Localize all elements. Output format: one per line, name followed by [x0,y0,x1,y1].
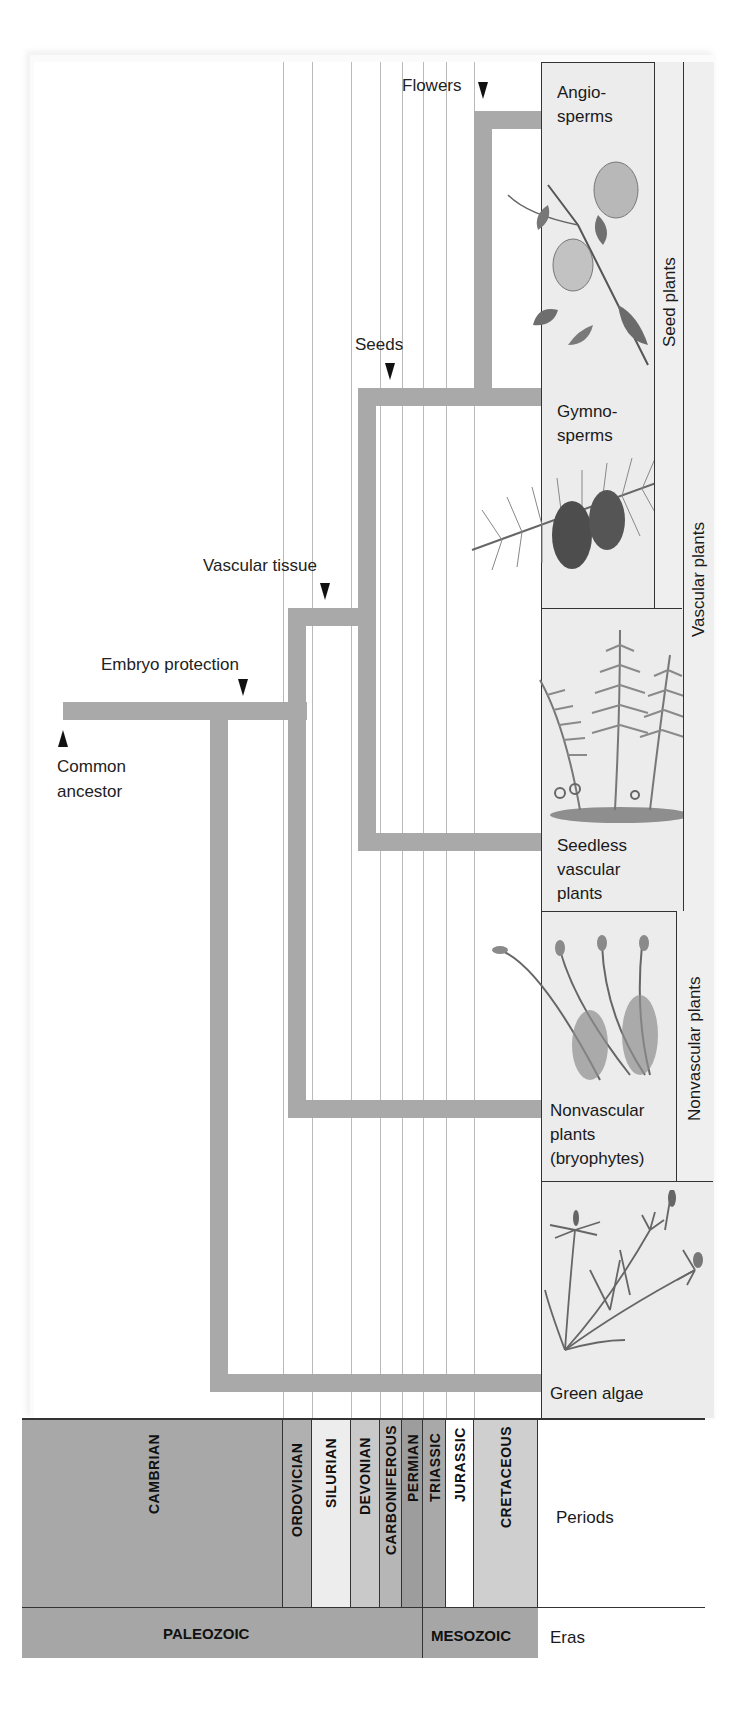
trait-label: Seeds [355,335,403,355]
trait-label: Vascular tissue [203,556,317,576]
arrow-down-icon [238,679,248,696]
period-triassic: TRIASSIC [423,1420,446,1608]
grid-line [402,62,403,1420]
arrow-down-icon [478,82,488,99]
taxon-label-line3: plants [557,883,602,904]
branch-root [63,702,307,720]
group-seed-plants: Seed plants [654,62,684,608]
grid-line [283,62,284,1420]
period-label: ORDOVICIAN [289,1443,305,1537]
period-label: JURASSIC [452,1427,468,1502]
periods-axis-label: Periods [556,1508,614,1528]
period-devonian: DEVONIAN [351,1420,380,1608]
period-permian: PERMIAN [402,1420,423,1608]
divider [541,1181,713,1182]
taxon-label-line2: plants [550,1124,595,1145]
taxon-label-line3: (bryophytes) [550,1148,644,1169]
taxon-angiosperms [541,62,654,63]
period-label: CRETACEOUS [498,1426,514,1528]
branch-land-plants-vertical [288,608,306,1118]
branch-green-algae-vertical [210,702,228,1392]
grid-line [380,62,381,1420]
period-carboniferous: CARBONIFEROUS [380,1420,402,1608]
trait-label: Embryo protection [101,655,239,675]
taxon-label-line1: Gymno- [557,401,617,422]
period-cretaceous: CRETACEOUS [474,1420,538,1608]
period-label: DEVONIAN [357,1437,373,1515]
period-label: CARBONIFEROUS [383,1425,399,1555]
era-paleozoic: PALEOZOIC [22,1608,423,1658]
branch-seedless-vascular [358,833,541,851]
grid-line [423,62,424,1420]
root-label-line1: Common [57,757,126,777]
group-label: Vascular plants [689,507,709,637]
era-mesozoic: MESOZOIC [423,1608,538,1658]
branch-green-algae [210,1374,541,1392]
period-ordovician: ORDOVICIAN [283,1420,312,1608]
grid-line [312,62,313,1420]
arrow-up-icon [58,730,68,747]
branch-gymnosperms [358,388,541,406]
period-silurian: SILURIAN [312,1420,351,1608]
arrow-down-icon [385,363,395,380]
divider [541,608,682,609]
grid-line [446,62,447,1420]
period-label: SILURIAN [323,1438,339,1508]
flower-illustration [498,155,658,375]
branch-seed-plants-vertical [474,111,492,406]
era-label: PALEOZOIC [163,1625,249,1642]
group-nonvascular-plants: Nonvascular plants [676,911,714,1181]
taxon-label-line2: sperms [557,106,613,127]
group-vascular-plants: Vascular plants [683,62,714,911]
period-label: CAMBRIAN [146,1434,162,1514]
arrow-down-icon [320,583,330,600]
root-label-line2: ancestor [57,782,122,802]
period-label: PERMIAN [405,1434,421,1502]
group-label: Seed plants [660,257,680,347]
taxon-label-line1: Nonvascular [550,1100,645,1121]
period-label: TRIASSIC [427,1433,443,1502]
taxon-label-line1: Angio- [557,82,606,103]
period-jurassic: JURASSIC [446,1420,474,1608]
fern-illustration [535,615,700,830]
moss-illustration [490,935,670,1095]
trait-label: Flowers [402,76,462,96]
era-label: MESOZOIC [431,1627,511,1644]
taxon-label-line2: vascular [557,859,620,880]
taxon-label-line1: Green algae [550,1383,644,1404]
taxon-label-line1: Seedless [557,835,627,856]
period-cambrian: CAMBRIAN [22,1420,283,1608]
eras-axis-label: Eras [550,1628,585,1648]
green-algae-illustration [540,1190,705,1360]
grid-line [351,62,352,1420]
branch-nonvascular [288,1100,541,1118]
branch-vascular-vertical [358,388,376,851]
group-label: Nonvascular plants [685,971,705,1121]
branch-angiosperms [474,111,541,129]
